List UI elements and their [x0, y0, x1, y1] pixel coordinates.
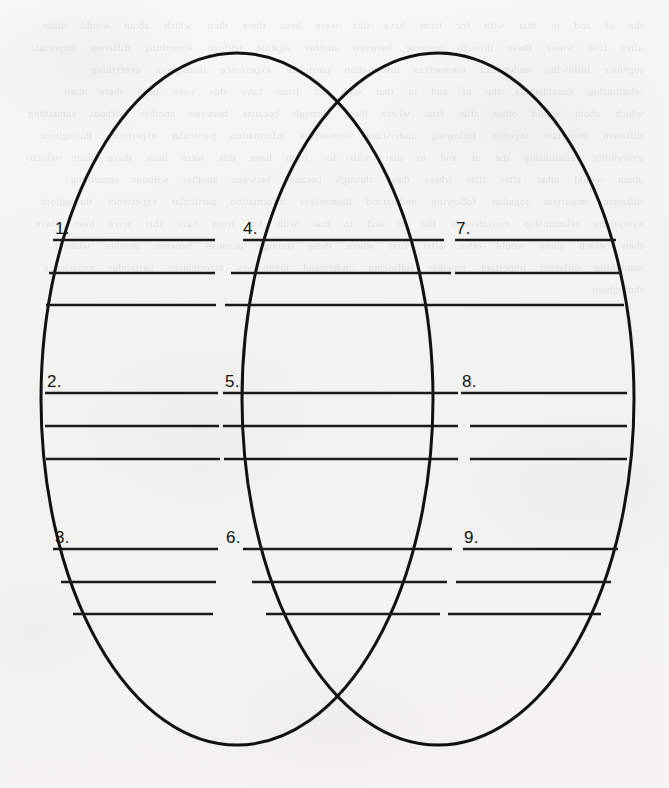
item-number-3: 3. [55, 528, 70, 548]
item-number-5: 5. [225, 372, 240, 392]
item-number-8: 8. [462, 372, 477, 392]
right-zone-rules [448, 240, 627, 614]
item-number-6: 6. [226, 528, 241, 548]
item-number-1: 1. [55, 219, 70, 239]
venn-diagram [0, 0, 669, 788]
item-number-2: 2. [47, 372, 62, 392]
worksheet-page: the of and to that with for from have th… [0, 0, 669, 788]
left-ellipse [41, 53, 433, 745]
right-ellipse [242, 53, 634, 745]
left-zone-rules [45, 240, 220, 614]
item-number-4: 4. [243, 219, 258, 239]
item-number-7: 7. [456, 219, 471, 239]
item-number-9: 9. [464, 528, 479, 548]
